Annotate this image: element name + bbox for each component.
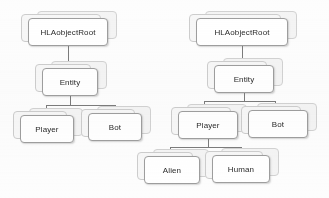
node-label: Player (20, 115, 74, 143)
class-node-hlaobjectroot[interactable]: HLAobjectRoot (28, 18, 108, 46)
node-label: Entity (42, 68, 98, 96)
node-label: Entity (214, 65, 274, 93)
node-label: HLAobjectRoot (28, 18, 108, 46)
class-node-entity[interactable]: Entity (42, 68, 98, 96)
r-entity-bus (204, 101, 275, 102)
node-label: Bot (248, 110, 308, 138)
node-label: Alien (144, 156, 200, 184)
diagram-canvas: HLAobjectRootEntityPlayerBotHLAobjectRoo… (0, 0, 329, 198)
class-node-bot[interactable]: Bot (248, 110, 308, 138)
l-entity-stem (70, 96, 71, 105)
class-node-player[interactable]: Player (20, 115, 74, 143)
node-label: Bot (88, 113, 142, 141)
node-label: HLAobjectRoot (196, 18, 288, 46)
class-node-hlaobjectroot[interactable]: HLAobjectRoot (196, 18, 288, 46)
class-node-alien[interactable]: Alien (144, 156, 200, 184)
class-node-bot[interactable]: Bot (88, 113, 142, 141)
l-root-to-entity-v1 (68, 46, 69, 57)
class-node-entity[interactable]: Entity (214, 65, 274, 93)
class-node-human[interactable]: Human (212, 155, 270, 183)
node-label: Player (178, 111, 238, 139)
node-label: Human (212, 155, 270, 183)
r-entity-stem (244, 93, 245, 101)
r-player-stem (208, 139, 209, 147)
class-node-player[interactable]: Player (178, 111, 238, 139)
